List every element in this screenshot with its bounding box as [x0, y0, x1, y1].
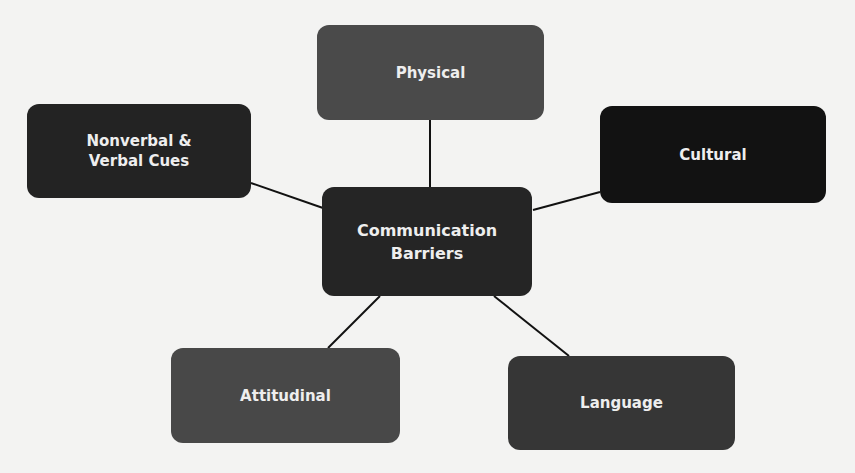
edge-center-cultural	[533, 192, 600, 210]
node-cultural: Cultural	[600, 106, 826, 203]
center-label: Communication Barriers	[357, 219, 497, 265]
node-physical: Physical	[317, 25, 544, 120]
node-cultural-label: Cultural	[679, 145, 746, 165]
edge-center-nonverbal	[251, 183, 323, 208]
node-nonverbal-verbal-cues: Nonverbal & Verbal Cues	[27, 104, 251, 198]
edge-center-attitudinal	[328, 296, 380, 348]
node-language: Language	[508, 356, 735, 450]
node-attitudinal: Attitudinal	[171, 348, 400, 443]
node-nonverbal-label: Nonverbal & Verbal Cues	[86, 131, 191, 171]
edge-center-language	[494, 296, 569, 356]
node-language-label: Language	[580, 393, 663, 413]
node-communication-barriers: Communication Barriers	[322, 187, 532, 296]
node-attitudinal-label: Attitudinal	[240, 386, 331, 406]
node-physical-label: Physical	[396, 63, 466, 83]
